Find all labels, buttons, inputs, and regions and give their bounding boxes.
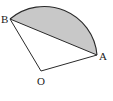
radius-oa — [41, 55, 97, 71]
label-a: A — [99, 51, 107, 62]
sector-diagram: B A O — [0, 0, 113, 101]
label-o: O — [37, 76, 45, 87]
label-b: B — [1, 14, 8, 25]
sector-figure — [0, 0, 113, 101]
shaded-segment — [10, 6, 97, 55]
